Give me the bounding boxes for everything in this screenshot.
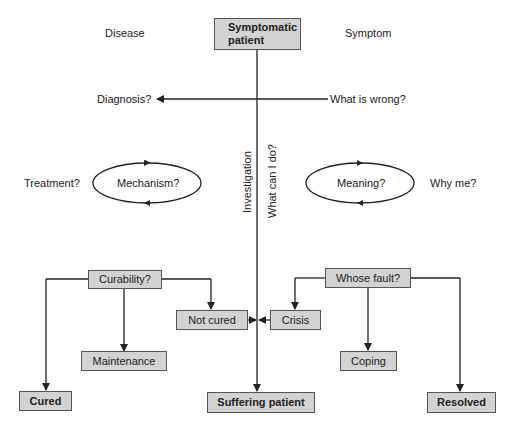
mechanism-question: Mechanism?: [117, 177, 179, 190]
meaning-question: Meaning?: [337, 177, 385, 190]
symptomatic-patient-label: Symptomatic patient: [228, 21, 290, 47]
not-cured-node: Not cured: [176, 310, 248, 330]
diagnosis-question: Diagnosis?: [97, 93, 151, 106]
connector-lines: [0, 0, 512, 430]
symptom-column-label: Symptom: [345, 27, 391, 40]
crisis-node: Crisis: [270, 310, 321, 330]
resolved-node: Resolved: [427, 392, 496, 413]
disease-column-label: Disease: [105, 27, 145, 40]
investigation-label: Investigation: [241, 151, 253, 213]
suffering-patient-node: Suffering patient: [207, 392, 315, 413]
what-is-wrong-question: What is wrong?: [330, 93, 406, 106]
treatment-question: Treatment?: [24, 177, 80, 190]
symptomatic-patient-node: Symptomatic patient: [214, 18, 301, 50]
what-can-i-do-label: What can I do?: [266, 144, 278, 218]
maintenance-node: Maintenance: [81, 351, 167, 371]
cured-node: Cured: [19, 391, 72, 411]
why-me-question: Why me?: [430, 177, 476, 190]
coping-node: Coping: [340, 351, 397, 371]
whose-fault-node: Whose fault?: [325, 268, 411, 288]
curability-node: Curability?: [88, 270, 162, 289]
